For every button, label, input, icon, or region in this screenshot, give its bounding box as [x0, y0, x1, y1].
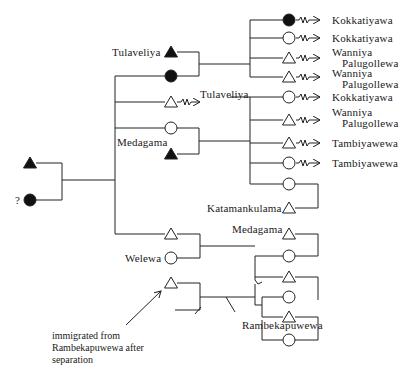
label-question: ? [15, 195, 20, 206]
dest-g2-2b: Palugollewa [342, 118, 399, 129]
dest-g1-1: Kokkatiyawa [332, 15, 393, 26]
label-tulaveliya-move: Tulaveliya [200, 89, 249, 100]
founder-female-deceased [24, 194, 36, 206]
founder-male-deceased [24, 157, 37, 168]
dest-g1-2: Kokkatiyawa [332, 33, 393, 44]
annotation-line2: Rambekapuwewa after [52, 342, 144, 354]
annotation-line1: immigrated from [52, 330, 144, 342]
label-medagama-low: Medagama [232, 224, 282, 235]
dest-g2-3: Tambiyawewa [332, 138, 398, 149]
label-welewa: Welewa [125, 253, 161, 264]
label-tulaveliya-top: Tulaveliya [112, 47, 161, 58]
dest-g1-4b: Palugollewa [342, 79, 399, 90]
dest-g2-1: Kokkatiyawa [332, 92, 393, 103]
annotation-immigrated: immigrated from Rambekapuwewa after sepa… [52, 330, 144, 366]
annotation-line3: separation [52, 354, 144, 366]
label-medagama-mid: Medagama [117, 137, 167, 148]
dest-g2-4: Tambiyawewa [332, 158, 398, 169]
label-rambekapuwewa: Rambekapuwewa [242, 320, 323, 331]
label-katamankulama: Katamankulama [207, 203, 282, 214]
